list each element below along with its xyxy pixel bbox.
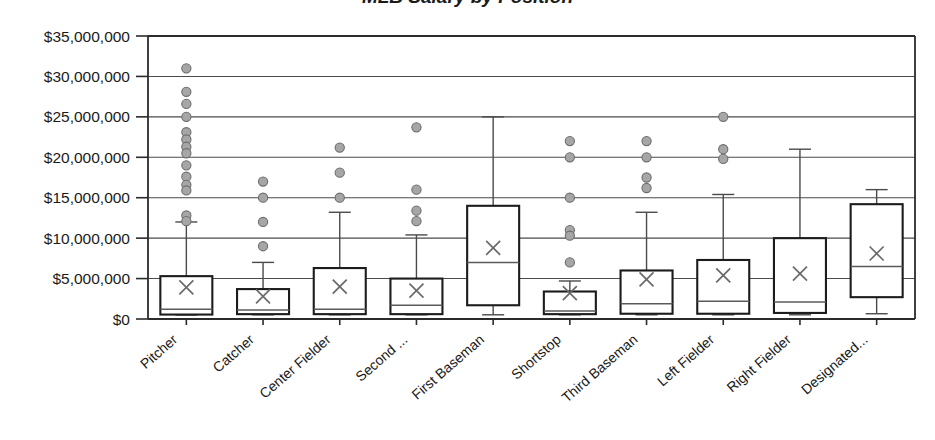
y-tick-label: $20,000,000 — [44, 149, 131, 166]
y-tick-label: $5,000,000 — [52, 270, 130, 287]
box-iqr[interactable] — [697, 260, 749, 314]
box-iqr[interactable] — [467, 206, 519, 305]
outlier-point[interactable] — [412, 123, 421, 132]
x-tick-label: Catcher — [210, 331, 258, 375]
x-axis-tick-labels: PitcherCatcherCenter FielderSecond ...Fi… — [137, 319, 877, 406]
outlier-point[interactable] — [642, 137, 651, 146]
y-tick-label: $15,000,000 — [44, 189, 131, 206]
box-iqr[interactable] — [314, 268, 366, 314]
box-plot-item[interactable] — [160, 64, 212, 315]
outlier-point[interactable] — [182, 186, 191, 195]
y-tick-label: $0 — [113, 311, 131, 328]
x-tick-label: Shortstop — [508, 331, 564, 383]
plot-canvas: $0$5,000,000$10,000,000$15,000,000$20,00… — [0, 0, 935, 440]
outlier-point[interactable] — [182, 112, 191, 121]
x-tick-label: Second ... — [352, 331, 410, 384]
outlier-point[interactable] — [642, 173, 651, 182]
box-plot-item[interactable] — [621, 137, 673, 315]
box-iqr[interactable] — [390, 279, 442, 315]
outlier-point[interactable] — [335, 143, 344, 152]
box-iqr[interactable] — [621, 270, 673, 313]
outlier-point[interactable] — [412, 206, 421, 215]
x-tick-label: Left Fielder — [654, 331, 718, 389]
box-plot-item[interactable] — [314, 143, 366, 315]
box-plot-item[interactable] — [697, 112, 749, 315]
outlier-point[interactable] — [182, 64, 191, 73]
x-tick-label: Center Fielder — [256, 331, 334, 401]
box-iqr[interactable] — [851, 204, 903, 297]
outlier-point[interactable] — [642, 183, 651, 192]
outlier-point[interactable] — [258, 242, 267, 251]
box-plot-item[interactable] — [851, 190, 903, 314]
y-tick-label: $25,000,000 — [44, 108, 131, 125]
outlier-point[interactable] — [182, 161, 191, 170]
outlier-point[interactable] — [565, 153, 574, 162]
outlier-point[interactable] — [412, 217, 421, 226]
x-tick-label: First Baseman — [409, 331, 488, 402]
outlier-point[interactable] — [565, 258, 574, 267]
x-tick-label: Pitcher — [137, 331, 181, 372]
box-plot-item[interactable] — [544, 137, 596, 315]
box-plot-chart: MLB Salary by Position $0$5,000,000$10,0… — [0, 0, 935, 440]
outlier-point[interactable] — [642, 153, 651, 162]
y-tick-label: $30,000,000 — [44, 68, 131, 85]
outlier-point[interactable] — [565, 193, 574, 202]
outlier-point[interactable] — [412, 185, 421, 194]
x-tick-label: Third Baseman — [558, 331, 640, 405]
outlier-point[interactable] — [182, 87, 191, 96]
outlier-point[interactable] — [258, 193, 267, 202]
outlier-point[interactable] — [258, 177, 267, 186]
x-tick-label: Designated... — [798, 331, 871, 397]
box-plot-item[interactable] — [390, 123, 442, 315]
outlier-point[interactable] — [335, 193, 344, 202]
box-series — [160, 64, 902, 315]
outlier-point[interactable] — [182, 217, 191, 226]
box-plot-item[interactable] — [774, 149, 826, 315]
y-tick-label: $35,000,000 — [44, 28, 131, 45]
outlier-point[interactable] — [258, 217, 267, 226]
outlier-point[interactable] — [719, 154, 728, 163]
y-axis-tick-labels: $0$5,000,000$10,000,000$15,000,000$20,00… — [44, 28, 148, 328]
outlier-point[interactable] — [182, 99, 191, 108]
outlier-point[interactable] — [565, 231, 574, 240]
y-tick-label: $10,000,000 — [44, 230, 131, 247]
outlier-point[interactable] — [335, 168, 344, 177]
outlier-point[interactable] — [719, 145, 728, 154]
outlier-point[interactable] — [182, 149, 191, 158]
box-plot-item[interactable] — [467, 117, 519, 315]
outlier-point[interactable] — [719, 112, 728, 121]
x-tick-label: Right Fielder — [724, 331, 795, 395]
outlier-point[interactable] — [565, 137, 574, 146]
chart-title: MLB Salary by Position — [0, 0, 935, 8]
